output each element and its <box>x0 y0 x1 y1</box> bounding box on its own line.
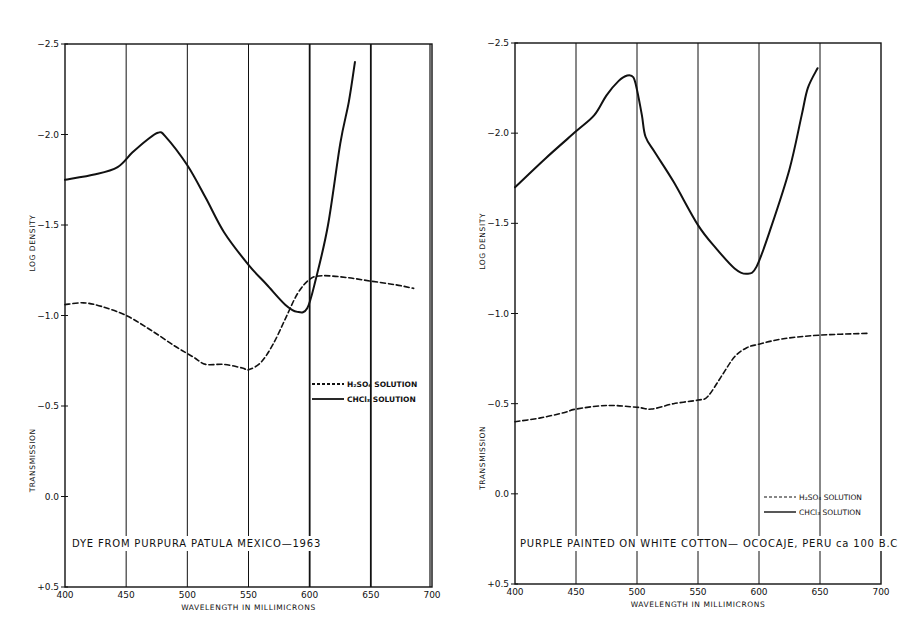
x-axis-ticks: 400450500550600650700 <box>56 590 440 600</box>
y-tick-label: −0.5 <box>37 401 59 411</box>
x-tick-label: 600 <box>750 587 767 597</box>
x-axis-ticks: 400450500550600650700 <box>506 587 889 597</box>
legend-label-h2so4: H₂SO₄ SOLUTION <box>347 380 417 389</box>
legend-label-h2so4: H₂SO₄ SOLUTION <box>799 493 862 502</box>
gridlines <box>126 44 430 587</box>
y-tick-label: −2.0 <box>487 128 509 138</box>
y-tick-label: −2.5 <box>487 38 509 48</box>
x-axis-label: WAVELENGTH IN MILLIMICRONS <box>181 603 316 612</box>
x-tick-label: 500 <box>628 587 645 597</box>
y-tick-label: 0.0 <box>495 489 510 499</box>
x-tick-label: 550 <box>240 590 257 600</box>
caption-text: PURPLE PAINTED ON WHITE COTTON— OCOCAJE,… <box>520 538 898 549</box>
caption-text: DYE FROM PURPURA PATULA MEXICO—1963 <box>72 538 321 549</box>
chart-caption: DYE FROM PURPURA PATULA MEXICO—1963 <box>69 536 324 551</box>
y-tick-label: −2.0 <box>37 130 59 140</box>
y-tick-label: −1.0 <box>37 311 59 321</box>
y-axis-label-transmission: TRANSMISSION <box>28 428 37 493</box>
x-axis-label: WAVELENGTH IN MILLIMICRONS <box>631 600 766 609</box>
x-tick-label: 400 <box>506 587 523 597</box>
legend: H₂SO₄ SOLUTIONCHCl₃ SOLUTION <box>312 380 417 404</box>
series-chcl3-line <box>515 68 818 274</box>
left-chart: −2.5−2.0−1.5−1.0−0.50.0+0.54004505005506… <box>28 39 441 612</box>
y-tick-label: −1.5 <box>487 218 509 228</box>
right-chart: −2.5−2.0−1.5−1.0−0.50.0+0.54004505005506… <box>478 38 901 609</box>
legend-label-chcl3: CHCl₃ SOLUTION <box>347 395 416 404</box>
x-tick-label: 550 <box>689 587 706 597</box>
series-chcl3-line <box>65 62 355 312</box>
y-axis-label-log-density: LOG DENSITY <box>478 213 487 270</box>
x-tick-label: 400 <box>56 590 73 600</box>
y-tick-label: −1.0 <box>487 309 509 319</box>
y-axis-label-transmission: TRANSMISSION <box>478 426 487 491</box>
legend-label-chcl3: CHCl₃ SOLUTION <box>799 508 861 517</box>
y-tick-label: −1.5 <box>37 220 59 230</box>
y-tick-label: 0.0 <box>45 492 60 502</box>
x-tick-label: 700 <box>423 590 440 600</box>
x-tick-label: 450 <box>118 590 135 600</box>
y-axis-ticks: −2.5−2.0−1.5−1.0−0.50.0+0.5 <box>37 39 68 592</box>
x-tick-label: 650 <box>362 590 379 600</box>
spectral-charts: −2.5−2.0−1.5−1.0−0.50.0+0.54004505005506… <box>0 0 920 637</box>
y-axis-label-log-density: LOG DENSITY <box>28 215 37 272</box>
chart-caption: PURPLE PAINTED ON WHITE COTTON— OCOCAJE,… <box>517 536 901 551</box>
x-tick-label: 700 <box>872 587 889 597</box>
x-tick-label: 650 <box>811 587 828 597</box>
y-tick-label: −2.5 <box>37 39 59 49</box>
x-tick-label: 500 <box>179 590 196 600</box>
y-tick-label: −0.5 <box>487 399 509 409</box>
series-h2so4-line <box>515 333 869 421</box>
legend: H₂SO₄ SOLUTIONCHCl₃ SOLUTION <box>764 493 862 517</box>
gridlines <box>576 43 820 584</box>
y-axis-ticks: −2.5−2.0−1.5−1.0−0.50.0+0.5 <box>487 38 518 589</box>
x-tick-label: 450 <box>567 587 584 597</box>
x-tick-label: 600 <box>301 590 318 600</box>
series-h2so4-line <box>65 276 414 370</box>
